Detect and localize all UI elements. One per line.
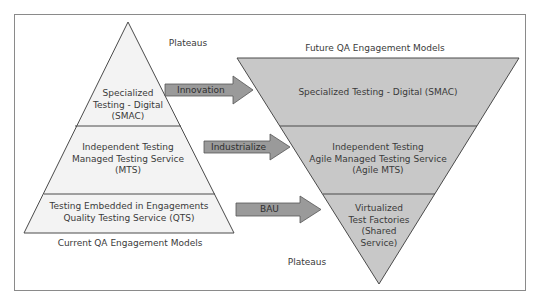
right-tier-2: Independent Testing Agile Managed Testin…: [309, 142, 446, 177]
tier-line: Testing - Digital: [93, 100, 163, 112]
tier-line: Service): [349, 238, 410, 250]
tier-line: Testing Embedded in Engagements: [50, 201, 209, 213]
tier-line: (SMAC): [93, 111, 163, 123]
tier-line: (MTS): [72, 165, 184, 177]
tier-line: Virtualized: [349, 203, 410, 215]
tier-line: Specialized Testing - Digital (SMAC): [298, 87, 457, 99]
tier-line: Independent Testing: [72, 142, 184, 154]
right-top-label: Future QA Engagement Models: [305, 43, 445, 55]
tier-line: Managed Testing Service: [72, 154, 184, 166]
tier-line: (Shared: [349, 226, 410, 238]
arrow-bau-label: BAU: [260, 203, 279, 215]
tier-line: Test Factories: [349, 215, 410, 227]
left-tier-1: Specialized Testing - Digital (SMAC): [93, 88, 163, 123]
tier-line: (Agile MTS): [309, 165, 446, 177]
left-bottom-label: Current QA Engagement Models: [58, 238, 203, 250]
left-tier-3: Testing Embedded in Engagements Quality …: [50, 201, 209, 224]
tier-line: Specialized: [93, 88, 163, 100]
arrow-industrialize-label: Industrialize: [211, 141, 266, 153]
tier-line: Independent Testing: [309, 142, 446, 154]
tier-line: Agile Managed Testing Service: [309, 154, 446, 166]
arrow-innovation-label: Innovation: [177, 84, 225, 96]
right-tier-1: Specialized Testing - Digital (SMAC): [298, 87, 457, 99]
left-top-label: Plateaus: [169, 38, 207, 50]
left-tier-2: Independent Testing Managed Testing Serv…: [72, 142, 184, 177]
right-bottom-label: Plateaus: [288, 257, 326, 269]
tier-line: Quality Testing Service (QTS): [50, 213, 209, 225]
right-tier-3: Virtualized Test Factories (Shared Servi…: [349, 203, 410, 249]
